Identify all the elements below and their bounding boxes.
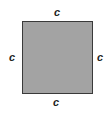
side-label-right: c bbox=[97, 52, 103, 63]
square-shape bbox=[22, 21, 93, 94]
side-label-left: c bbox=[9, 52, 15, 63]
side-label-bottom: c bbox=[53, 97, 59, 108]
side-label-top: c bbox=[54, 7, 60, 18]
